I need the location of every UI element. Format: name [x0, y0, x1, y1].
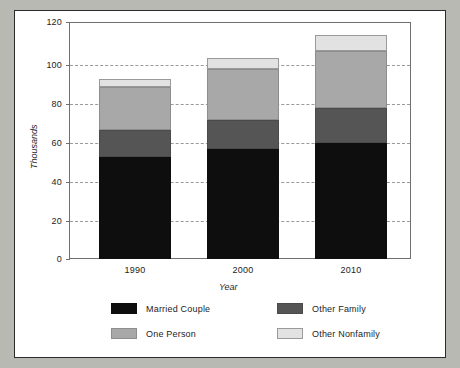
bar-segment-2000-married-couple[interactable] [207, 149, 279, 259]
bar-group-1990[interactable] [99, 22, 171, 259]
y-axis-title: Thousands [29, 124, 39, 169]
chart-legend: Married Couple Other Family One Person O… [27, 303, 431, 349]
legend-label-one-person: One Person [146, 329, 196, 339]
legend-label-other-nonfamily: Other Nonfamily [312, 329, 380, 339]
ytick-mark-60 [66, 143, 70, 144]
bar-segment-2010-married-couple[interactable] [315, 143, 387, 259]
legend-item-one-person[interactable]: One Person [111, 328, 196, 339]
legend-item-married-couple[interactable]: Married Couple [111, 303, 210, 314]
ytick-mark-120 [66, 22, 70, 23]
ytick-mark-20 [66, 221, 70, 222]
figure-frame: 120 100 80 60 40 20 0 Thousands [14, 10, 446, 358]
bar-segment-2010-other-nonfamily[interactable] [315, 35, 387, 51]
legend-item-other-nonfamily[interactable]: Other Nonfamily [277, 328, 380, 339]
legend-swatch-married-couple [111, 303, 137, 314]
ytick-mark-100 [66, 65, 70, 66]
ytick-mark-40 [66, 182, 70, 183]
bar-segment-1990-married-couple[interactable] [99, 157, 171, 259]
bar-segment-1990-other-nonfamily[interactable] [99, 79, 171, 87]
xtick-label-2000: 2000 [207, 265, 279, 275]
legend-swatch-one-person [111, 328, 137, 339]
ytick-label-60: 60 [35, 138, 62, 148]
bar-segment-2000-other-family[interactable] [207, 120, 279, 149]
xtick-label-2010: 2010 [315, 265, 387, 275]
ytick-label-0: 0 [35, 254, 62, 264]
legend-label-other-family: Other Family [312, 304, 366, 314]
bar-segment-1990-other-family[interactable] [99, 130, 171, 157]
legend-label-married-couple: Married Couple [146, 304, 210, 314]
bar-segment-2010-one-person[interactable] [315, 51, 387, 108]
ytick-label-100: 100 [35, 60, 62, 70]
xtick-label-1990: 1990 [99, 265, 171, 275]
x-axis-title: Year [219, 282, 238, 292]
ytick-label-20: 20 [35, 216, 62, 226]
bar-segment-2000-other-nonfamily[interactable] [207, 58, 279, 69]
bar-group-2000[interactable] [207, 22, 279, 259]
ytick-mark-0 [66, 259, 70, 260]
bar-group-2010[interactable] [315, 22, 387, 259]
ytick-label-80: 80 [35, 99, 62, 109]
legend-item-other-family[interactable]: Other Family [277, 303, 366, 314]
bar-segment-2000-one-person[interactable] [207, 69, 279, 120]
legend-swatch-other-family [277, 303, 303, 314]
ytick-label-40: 40 [35, 177, 62, 187]
ytick-label-120: 120 [35, 17, 62, 27]
legend-swatch-other-nonfamily [277, 328, 303, 339]
ytick-mark-80 [66, 104, 70, 105]
bar-segment-2010-other-family[interactable] [315, 108, 387, 143]
stacked-bar-chart: 120 100 80 60 40 20 0 Thousands [15, 11, 445, 357]
bar-segment-1990-one-person[interactable] [99, 87, 171, 130]
